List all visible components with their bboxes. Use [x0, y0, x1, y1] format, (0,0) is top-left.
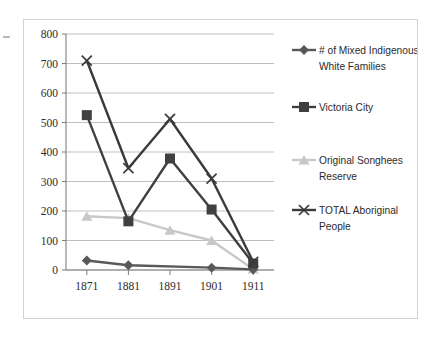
x-axis-tick-label: 1901 — [200, 280, 223, 292]
diamond-marker — [82, 256, 92, 266]
x-axis-tick-label: 1911 — [242, 280, 265, 292]
y-axis-tick-label: 700 — [41, 58, 59, 70]
square-marker — [165, 153, 175, 163]
y-axis-tick-label: 200 — [41, 205, 59, 217]
square-marker — [82, 110, 92, 120]
square-marker — [207, 205, 217, 215]
square-marker — [299, 102, 309, 112]
square-marker — [123, 216, 133, 226]
x-marker — [82, 56, 92, 66]
y-axis-tick-label: 400 — [41, 146, 59, 158]
x-marker — [207, 174, 217, 184]
line-chart: 0100200300400500600700800187118811891190… — [24, 20, 417, 318]
legend-label-continued: People — [319, 221, 351, 232]
y-axis-tick-label: 100 — [41, 235, 59, 247]
legend-label: Victoria City — [319, 102, 374, 113]
page-edge-mark — [3, 36, 10, 38]
x-axis-tick-label: 1881 — [117, 280, 140, 292]
series-line — [82, 110, 258, 268]
y-axis-tick-label: 500 — [41, 117, 59, 129]
x-axis-labels: 18711881189119011911 — [75, 270, 264, 292]
chart-container: 0100200300400500600700800187118811891190… — [0, 0, 440, 339]
y-gridlines: 0100200300400500600700800 — [41, 28, 274, 276]
legend-label: Original Songhees — [319, 155, 403, 166]
diamond-marker — [123, 260, 133, 270]
x-axis-tick-label: 1891 — [159, 280, 182, 292]
x-marker — [123, 163, 133, 173]
x-axis-tick-label: 1871 — [75, 280, 98, 292]
legend-label-continued: Reserve — [319, 171, 357, 182]
y-axis-tick-label: 0 — [52, 264, 58, 276]
y-axis-tick-label: 300 — [41, 176, 59, 188]
y-axis-tick-label: 600 — [41, 87, 59, 99]
legend-label-continued: White Families — [319, 61, 386, 72]
chart-legend: # of Mixed Indigenous-White FamiliesVict… — [292, 45, 417, 232]
chart-frame: 0100200300400500600700800187118811891190… — [23, 19, 418, 319]
diamond-marker — [299, 45, 309, 55]
diamond-marker — [207, 263, 217, 273]
y-axis-tick-label: 800 — [41, 28, 59, 40]
legend-label: TOTAL Aboriginal — [319, 205, 398, 216]
legend-label: # of Mixed Indigenous- — [319, 45, 417, 56]
